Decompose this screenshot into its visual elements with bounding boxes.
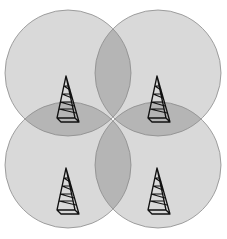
coverage-diagram [0,0,227,239]
